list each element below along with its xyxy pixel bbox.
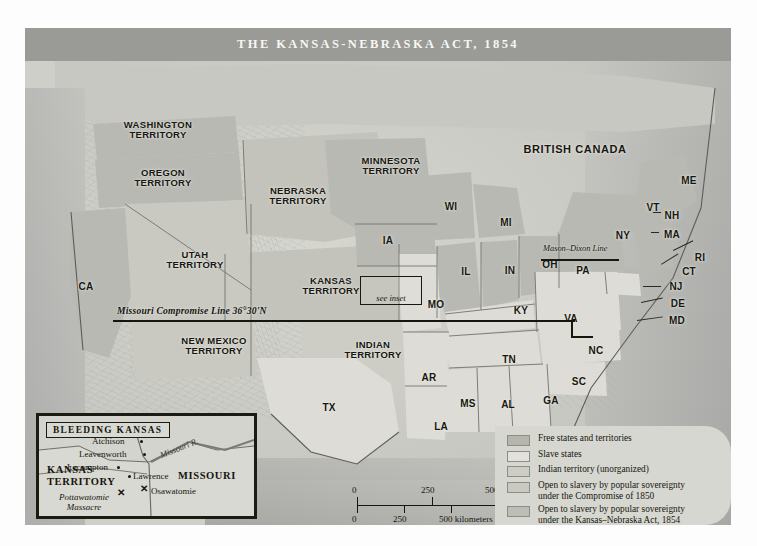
legend-swatch-free-states	[507, 435, 530, 446]
legend-swatch-slave-states	[507, 451, 530, 462]
page-title: THE KANSAS-NEBRASKA ACT, 1854	[237, 37, 519, 52]
label-new-mexico-territory: NEW MEXICO TERRITORY	[157, 336, 271, 357]
leader-nj	[643, 286, 661, 287]
legend-item-popular-sovereignty-1850: Open to slavery by popular sovereignty u…	[507, 480, 721, 502]
legend-label-popular-sovereignty-1850: Open to slavery by popular sovereignty u…	[538, 480, 685, 502]
label-new-hampshire: NH	[659, 211, 685, 222]
map-legend: Free states and territoriesSlave statesI…	[495, 426, 731, 525]
label-iowa: IA	[375, 236, 401, 247]
label-georgia: GA	[538, 396, 564, 407]
mason-dixon-line	[541, 259, 619, 261]
label-mississippi: MS	[455, 399, 481, 410]
legend-item-slave-states: Slave states	[507, 449, 721, 462]
label-illinois: IL	[453, 267, 479, 278]
scale-250-km: 250	[393, 514, 407, 524]
scale-tick-0-bottom	[357, 505, 358, 513]
inset-city-leavenworth: Leavenworth	[79, 449, 126, 459]
label-ohio: OH	[537, 260, 563, 271]
label-british-canada: BRITISH CANADA	[495, 144, 655, 156]
leader-nh	[653, 212, 661, 213]
missouri-compromise-line-step2	[571, 336, 593, 338]
label-new-york: NY	[610, 231, 636, 242]
label-new-jersey: NJ	[663, 282, 689, 293]
label-missouri: MO	[423, 300, 449, 311]
inset-city-lawrence: Lawrence	[133, 471, 168, 481]
map-plate: THE KANSAS-NEBRASKA ACT, 1854 BRITISH CA…	[25, 28, 731, 525]
scale-zero-top: 0	[352, 485, 357, 495]
legend-label-slave-states: Slave states	[538, 449, 582, 460]
inset-battle-marker-pottawatomie-massacre: ✕	[117, 488, 125, 498]
scale-axis	[357, 505, 507, 506]
see-inset-label: see inset	[361, 293, 421, 303]
legend-label-popular-sovereignty-kna: Open to slavery by popular sovereignty u…	[538, 504, 685, 525]
label-rhode-island: RI	[687, 253, 713, 264]
legend-swatch-indian-territory	[507, 466, 530, 477]
scale-zero-bottom: 0	[352, 514, 357, 524]
label-tennessee: TN	[496, 355, 522, 366]
label-louisiana: LA	[428, 422, 454, 433]
scale-500-km: 500 kilometers	[439, 514, 493, 524]
inset-battle-osawatomie: Osawatomie	[151, 486, 196, 496]
map-page: THE KANSAS-NEBRASKA ACT, 1854 BRITISH CA…	[0, 0, 757, 546]
label-oregon-territory: OREGON TERRITORY	[111, 168, 215, 189]
missouri-compromise-line	[113, 320, 575, 322]
inset-city-lecompton: Lecompton	[67, 462, 108, 472]
legend-swatch-popular-sovereignty-kna	[507, 506, 530, 517]
label-utah-territory: UTAH TERRITORY	[145, 250, 245, 271]
label-michigan: MI	[493, 218, 519, 229]
scale-tick-0-top	[357, 497, 358, 505]
scale-tick-500-bottom	[451, 505, 452, 513]
label-arkansas: AR	[416, 373, 442, 384]
inset-label-missouri: MISSOURI	[178, 470, 236, 482]
legend-item-free-states: Free states and territories	[507, 433, 721, 446]
label-indiana: IN	[497, 266, 523, 277]
scale-tick-250-bottom	[404, 505, 405, 513]
label-maine: ME	[676, 176, 702, 187]
label-north-carolina: NC	[583, 346, 609, 357]
label-missouri-compromise-line: Missouri Compromise Line 36°30'N	[117, 305, 267, 316]
label-alabama: AL	[495, 400, 521, 411]
label-massachusetts: MA	[659, 230, 685, 241]
label-nebraska-territory: NEBRASKA TERRITORY	[243, 186, 353, 207]
scale-tick-250-top	[432, 497, 433, 505]
inset-battle-pottawatomie-massacre: Pottawatomie Massacre	[59, 492, 109, 512]
legend-label-indian-territory: Indian territory (unorganized)	[538, 464, 649, 475]
label-connecticut: CT	[676, 267, 702, 278]
label-minnesota-territory: MINNESOTA TERRITORY	[337, 156, 445, 177]
map-title-band: THE KANSAS-NEBRASKA ACT, 1854	[25, 28, 731, 61]
label-california: CA	[73, 282, 99, 293]
legend-swatch-popular-sovereignty-1850	[507, 482, 530, 493]
leader-ma	[651, 232, 659, 233]
label-maryland: MD	[664, 316, 690, 327]
inset-battle-marker-osawatomie: ✕	[140, 484, 148, 494]
label-washington-territory: WASHINGTON TERRITORY	[103, 120, 213, 141]
label-south-carolina: SC	[566, 377, 592, 388]
label-indian-territory: INDIAN TERRITORY	[321, 340, 425, 361]
label-texas: TX	[316, 403, 342, 414]
legend-item-indian-territory: Indian territory (unorganized)	[507, 464, 721, 477]
label-wisconsin: WI	[438, 202, 464, 213]
legend-label-free-states: Free states and territories	[538, 433, 632, 444]
inset-city-atchison: Atchison	[92, 436, 125, 446]
label-kentucky: KY	[508, 306, 534, 317]
scale-250-miles: 250	[421, 485, 435, 495]
see-inset-box[interactable]: see inset	[360, 276, 422, 305]
bleeding-kansas-inset: BLEEDING KANSAS KANSAS TERRITORYMISSOURI…	[36, 413, 257, 519]
label-mason-dixon-line: Mason–Dixon Line	[543, 244, 607, 253]
label-delaware: DE	[665, 299, 691, 310]
label-pennsylvania: PA	[570, 266, 596, 277]
legend-item-popular-sovereignty-kna: Open to slavery by popular sovereignty u…	[507, 504, 721, 525]
